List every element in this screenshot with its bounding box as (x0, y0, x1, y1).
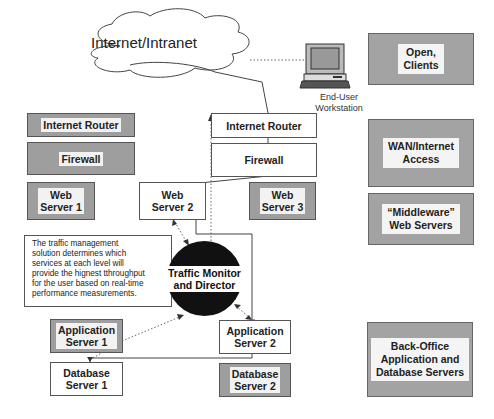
database-server-1[interactable]: Database Server 1 (50, 362, 123, 396)
tier-middleware-label: “Middleware” Web Servers (382, 204, 460, 234)
explanation-note: The traffic management solution determin… (24, 235, 172, 307)
web-server-3[interactable]: Web Server 3 (249, 182, 316, 220)
application-server-1[interactable]: Application Server 1 (50, 319, 123, 353)
application-server-1-label: Application Server 1 (56, 323, 117, 349)
workstation-label[interactable]: End-User Workstation (300, 92, 378, 113)
internet-router-center-label: Internet Router (226, 120, 301, 132)
tier-open-clients[interactable]: Open, Clients (368, 33, 474, 85)
web-server-2[interactable]: Web Server 2 (139, 182, 206, 220)
tier-open-clients-label: Open, Clients (398, 44, 443, 74)
web-server-3-label: Web Server 3 (260, 188, 305, 214)
tier-wan-access[interactable]: WAN/Internet Access (368, 119, 474, 187)
database-server-2[interactable]: Database Server 2 (219, 363, 291, 397)
internet-router-left-label: Internet Router (41, 118, 120, 132)
web-server-2-label: Web Server 2 (152, 189, 193, 213)
computer-icon (300, 44, 350, 88)
database-server-1-label: Database Server 1 (63, 367, 110, 391)
web-server-1[interactable]: Web Server 1 (27, 182, 95, 220)
traffic-director-label: Traffic Monitor and Director (167, 266, 242, 292)
internet-router-center[interactable]: Internet Router (211, 113, 317, 138)
firewall-left[interactable]: Firewall (27, 142, 135, 175)
web-server-1-label: Web Server 1 (38, 188, 83, 214)
tier-back-office[interactable]: Back-Office Application and Database Ser… (367, 322, 473, 397)
tier-back-office-label: Back-Office Application and Database Ser… (371, 338, 469, 381)
application-server-2[interactable]: Application Server 2 (219, 320, 291, 354)
application-server-2-label: Application Server 2 (226, 325, 283, 349)
tier-wan-access-label: WAN/Internet Access (383, 138, 459, 168)
firewall-center[interactable]: Firewall (211, 143, 317, 177)
firewall-center-label: Firewall (244, 154, 283, 166)
firewall-left-label: Firewall (59, 152, 102, 166)
internet-router-left[interactable]: Internet Router (27, 113, 135, 137)
database-server-2-label: Database Server 2 (230, 367, 281, 393)
tier-middleware-web-servers[interactable]: “Middleware” Web Servers (368, 193, 474, 245)
traffic-director-circle[interactable]: Traffic Monitor and Director (167, 241, 242, 316)
cloud-label: Internet/Intranet (64, 34, 224, 51)
